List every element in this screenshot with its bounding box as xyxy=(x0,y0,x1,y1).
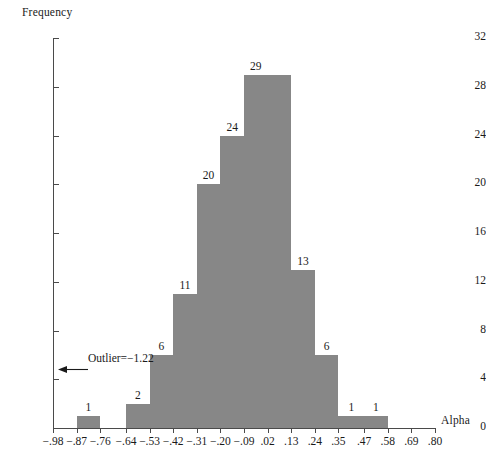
x-tick-mark xyxy=(220,428,221,433)
histogram-bar xyxy=(364,416,388,428)
y-tick-label: 20 xyxy=(440,176,486,188)
bar-value-label: 29 xyxy=(236,60,276,72)
bar-value-label: 1 xyxy=(68,401,108,413)
y-tick-mark xyxy=(53,282,59,283)
x-tick-mark xyxy=(150,428,151,433)
y-tick-label: 0 xyxy=(440,420,486,432)
histogram-bar xyxy=(173,294,197,428)
x-tick-mark xyxy=(338,428,339,433)
histogram-bar xyxy=(315,355,339,428)
x-tick-mark xyxy=(435,428,436,433)
y-tick-label: 28 xyxy=(440,79,486,91)
histogram-bar xyxy=(220,136,244,429)
x-tick-label: .80 xyxy=(415,435,455,447)
y-tick-label: 4 xyxy=(440,371,486,383)
bar-value-label: 1 xyxy=(356,401,396,413)
histogram-bar xyxy=(268,75,292,428)
histogram-bar xyxy=(77,416,101,428)
x-tick-mark xyxy=(411,428,412,433)
y-tick-label: 32 xyxy=(440,30,486,42)
x-tick-mark xyxy=(77,428,78,433)
y-axis-title: Frequency xyxy=(22,6,72,18)
y-tick-mark xyxy=(53,38,59,39)
x-tick-mark xyxy=(315,428,316,433)
y-tick-label: 12 xyxy=(440,274,486,286)
histogram-bar xyxy=(197,184,221,428)
outlier-annotation-label: Outlier=−1.22 xyxy=(88,352,154,364)
x-tick-mark xyxy=(291,428,292,433)
outlier-arrow-icon xyxy=(58,360,88,369)
y-tick-label: 24 xyxy=(440,128,486,140)
y-tick-mark xyxy=(53,184,59,185)
x-tick-mark xyxy=(388,428,389,433)
histogram-bar xyxy=(338,416,364,428)
histogram-bar xyxy=(244,75,268,428)
x-tick-mark xyxy=(364,428,365,433)
y-tick-label: 8 xyxy=(440,323,486,335)
histogram-bar xyxy=(126,404,150,428)
y-tick-mark xyxy=(53,87,59,88)
histogram-bar xyxy=(150,355,174,428)
x-tick-mark xyxy=(53,428,54,433)
y-tick-mark xyxy=(53,331,59,332)
bar-value-label: 13 xyxy=(283,255,323,267)
y-tick-mark xyxy=(53,233,59,234)
histogram-chart: Frequency Alpha 048121620242832 −.98−.87… xyxy=(0,0,486,466)
y-tick-label: 16 xyxy=(440,225,486,237)
y-tick-mark xyxy=(53,136,59,137)
bar-value-label: 6 xyxy=(307,340,347,352)
x-tick-mark xyxy=(197,428,198,433)
x-tick-mark xyxy=(268,428,269,433)
y-tick-mark xyxy=(53,379,59,380)
x-tick-mark xyxy=(126,428,127,433)
x-tick-mark xyxy=(244,428,245,433)
x-tick-mark xyxy=(100,428,101,433)
x-tick-mark xyxy=(173,428,174,433)
